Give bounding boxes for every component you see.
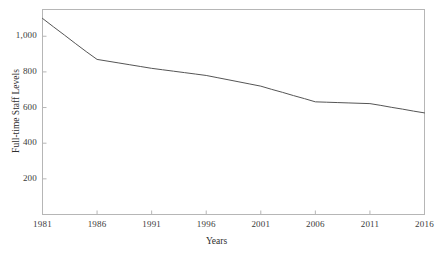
- y-axis-title: Full-time Staff Levels: [11, 56, 21, 166]
- x-axis-title: Years: [0, 236, 433, 246]
- y-axis-ticks: [43, 36, 47, 179]
- x-tick-label: 1981: [18, 219, 68, 229]
- y-tick-label: 200: [0, 173, 37, 183]
- x-tick-label: 1986: [72, 219, 122, 229]
- x-tick-label: 2016: [400, 219, 439, 229]
- x-tick-label: 2001: [236, 219, 286, 229]
- x-tick-label: 2006: [290, 219, 340, 229]
- series-line-full-time-staff-levels: [43, 18, 425, 112]
- y-tick-label: 1,000: [0, 30, 37, 40]
- x-axis-ticks: [43, 211, 425, 215]
- x-tick-label: 1996: [181, 219, 231, 229]
- x-tick-label: 1991: [127, 219, 177, 229]
- x-tick-label: 2011: [345, 219, 395, 229]
